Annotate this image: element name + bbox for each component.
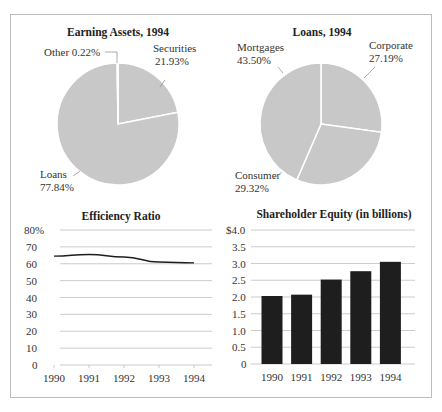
pie-slice-corporate	[321, 63, 382, 132]
leader-line	[364, 67, 375, 78]
y-tick-label: 2.0	[232, 291, 246, 303]
x-tick-label: 1994	[183, 372, 206, 384]
chart-title: Efficiency Ratio	[82, 210, 161, 223]
x-tick-label: 1991	[291, 371, 313, 383]
y-tick-label: 0	[32, 359, 38, 371]
y-tick-label: 2.5	[232, 274, 246, 286]
y-tick-label: 70	[26, 241, 38, 253]
y-tick-label: 40	[26, 292, 38, 304]
slice-value: 43.50%	[237, 54, 271, 66]
charts-canvas: Earning Assets, 1994Securities21.93%Othe…	[0, 0, 442, 412]
slice-value: 29.32%	[235, 182, 269, 194]
pie-slice-other	[117, 63, 118, 124]
x-tick-label: 1994	[379, 371, 402, 383]
bar-1990	[262, 296, 283, 364]
x-tick-label: 1992	[320, 371, 342, 383]
leader-line	[73, 171, 80, 176]
y-tick-label: 50	[26, 275, 38, 287]
slice-label: Other 0.22%	[44, 46, 100, 58]
slice-value: 27.19%	[369, 52, 403, 64]
y-tick-label: 3.0	[232, 258, 246, 270]
bar-1993	[350, 271, 371, 364]
y-tick-label: 60	[26, 258, 38, 270]
y-tick-label: 0.5	[232, 341, 246, 353]
y-tick-label: 30	[26, 308, 38, 320]
y-tick-label: 1.0	[232, 325, 246, 337]
chart-title: Loans, 1994	[293, 26, 352, 38]
x-tick-label: 1992	[113, 372, 135, 384]
x-tick-label: 1993	[148, 372, 171, 384]
y-tick-label: $4.0	[226, 224, 246, 236]
slice-label: Mortgages	[237, 41, 284, 53]
slice-value: 77.84%	[40, 181, 74, 193]
chart-title: Shareholder Equity (in billions)	[256, 208, 411, 221]
y-tick-label: 20	[26, 325, 38, 337]
slice-label: Corporate	[369, 39, 413, 51]
x-tick-label: 1993	[350, 371, 373, 383]
bar-1994	[380, 262, 401, 364]
y-tick-label: 10	[26, 342, 38, 354]
slice-label: Securities	[153, 42, 196, 54]
chart-title: Earning Assets, 1994	[67, 26, 169, 39]
leader-line	[105, 52, 117, 63]
leader-line	[278, 67, 283, 73]
y-tick-label: 0	[241, 358, 247, 370]
x-tick-label: 1991	[78, 372, 100, 384]
bar-1992	[321, 280, 342, 364]
y-tick-label: 80%	[24, 224, 44, 236]
bar-1991	[291, 295, 312, 364]
slice-label: Consumer	[235, 169, 281, 181]
x-tick-label: 1990	[261, 371, 284, 383]
slice-label: Loans	[40, 168, 67, 180]
y-tick-label: 3.5	[232, 241, 246, 253]
efficiency-line	[54, 254, 194, 262]
x-tick-label: 1990	[43, 372, 66, 384]
slice-value: 21.93%	[155, 55, 189, 67]
y-tick-label: 1.5	[232, 308, 246, 320]
